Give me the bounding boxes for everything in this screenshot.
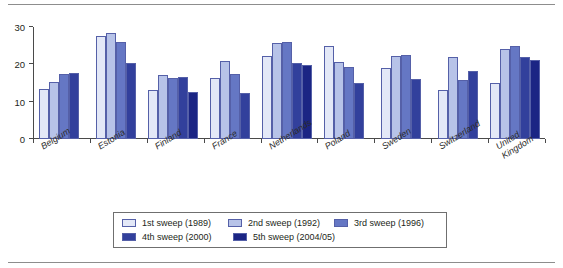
bar [354, 83, 364, 139]
bar [334, 62, 344, 139]
legend-label: 5th sweep (2004/05) [253, 232, 335, 242]
legend-label: 4th sweep (2000) [142, 232, 212, 242]
y-axis [33, 27, 34, 139]
bar [282, 42, 292, 139]
legend-row: 4th sweep (2000)5th sweep (2004/05) [122, 232, 440, 242]
legend-item[interactable]: 1st sweep (1989) [122, 218, 228, 228]
bar [126, 63, 136, 139]
legend-item[interactable]: 2nd sweep (1992) [228, 218, 334, 228]
x-tick [204, 139, 205, 143]
bar [272, 43, 282, 139]
bar [210, 78, 220, 139]
x-tick [488, 139, 489, 143]
bar [158, 75, 168, 139]
bar [220, 61, 230, 139]
bar [448, 57, 458, 139]
chart-legend: 1st sweep (1989)2nd sweep (1992)3rd swee… [113, 212, 447, 248]
bar-group [324, 27, 364, 139]
legend-swatch-icon [122, 233, 136, 241]
bar-group [210, 27, 250, 139]
legend-label: 1st sweep (1989) [142, 218, 211, 228]
legend-item[interactable]: 4th sweep (2000) [122, 232, 233, 242]
bar [411, 79, 421, 139]
y-tick-label: 10 [14, 96, 25, 107]
bar [490, 83, 500, 139]
x-tick [374, 139, 375, 143]
bar [381, 68, 391, 139]
bar [188, 92, 198, 139]
x-tick [261, 139, 262, 143]
bar [106, 33, 116, 139]
bar [391, 56, 401, 139]
legend-label: 2nd sweep (1992) [248, 218, 320, 228]
bar [324, 46, 334, 139]
bar [530, 60, 540, 139]
bar-group [96, 27, 136, 139]
legend-item[interactable]: 3rd sweep (1996) [334, 218, 440, 228]
y-tick-label: 30 [14, 22, 25, 33]
bottom-rule [8, 262, 555, 263]
bar [500, 49, 510, 139]
y-tick-label: 0 [20, 134, 25, 145]
legend-row: 1st sweep (1989)2nd sweep (1992)3rd swee… [122, 218, 440, 228]
bar [438, 90, 448, 139]
legend-swatch-icon [228, 219, 242, 227]
x-tick [431, 139, 432, 143]
y-tick-label: 20 [14, 59, 25, 70]
x-tick [33, 139, 34, 143]
legend-item[interactable]: 5th sweep (2004/05) [233, 232, 344, 242]
legend-label: 3rd sweep (1996) [354, 218, 424, 228]
y-tick: 30 [29, 26, 33, 27]
x-tick [90, 139, 91, 143]
x-tick [147, 139, 148, 143]
bar [240, 93, 250, 139]
y-tick: 10 [29, 101, 33, 102]
bar-group [381, 27, 421, 139]
x-tick [545, 139, 546, 143]
bar [69, 73, 79, 139]
x-tick [317, 139, 318, 143]
bar [116, 42, 126, 139]
bar [96, 36, 106, 139]
bar [262, 56, 272, 139]
bar [148, 90, 158, 139]
bar-group [148, 27, 198, 139]
bar [39, 89, 49, 139]
chart-figure: 0102030 BelgiumEstoniaFinlandFranceNethe… [0, 0, 563, 268]
bar [510, 46, 520, 139]
y-tick: 20 [29, 63, 33, 64]
top-rule [8, 4, 555, 5]
bar-group [39, 27, 79, 139]
legend-swatch-icon [233, 233, 247, 241]
bar-group [490, 27, 540, 139]
legend-swatch-icon [122, 219, 136, 227]
legend-swatch-icon [334, 219, 348, 227]
